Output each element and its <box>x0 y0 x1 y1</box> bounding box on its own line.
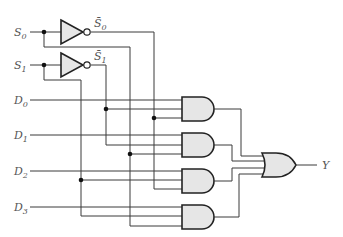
circuit-svg: S0 S1 S̄0 S̄1 D0 D1 D2 D3 Y <box>0 0 343 237</box>
svg-text:D2: D2 <box>13 165 28 180</box>
wires-and-to-or <box>214 109 266 217</box>
svg-text:D0: D0 <box>13 94 28 109</box>
svg-text:S̄0: S̄0 <box>94 17 107 32</box>
and-gate-0 <box>182 97 214 121</box>
label-d2: D2 <box>13 165 28 180</box>
svg-text:D3: D3 <box>13 201 28 216</box>
svg-text:S1: S1 <box>14 59 27 74</box>
label-d1: D1 <box>13 129 28 144</box>
label-s1-bar: S̄1 <box>94 50 107 65</box>
label-d0: D0 <box>13 94 28 109</box>
and-gate-3 <box>182 205 214 229</box>
and-gate-2 <box>182 169 214 193</box>
label-s0: S0 <box>14 26 27 41</box>
and-gate-1 <box>182 133 214 157</box>
inverter-s1 <box>61 53 90 77</box>
svg-text:Y: Y <box>322 159 331 172</box>
label-s1: S1 <box>14 59 27 74</box>
label-d3: D3 <box>13 201 28 216</box>
svg-text:S0: S0 <box>14 26 27 41</box>
label-s0-bar: S̄0 <box>94 17 107 32</box>
mux-diagram: S0 S1 S̄0 S̄1 D0 D1 D2 D3 Y <box>0 0 343 237</box>
inverter-s0 <box>61 20 90 44</box>
svg-text:S̄1: S̄1 <box>94 50 107 65</box>
label-y: Y <box>322 159 331 172</box>
or-gate <box>262 153 296 177</box>
svg-text:D1: D1 <box>13 129 28 144</box>
